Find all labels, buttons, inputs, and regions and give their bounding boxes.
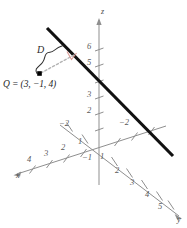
y-tick-label-5: 5 xyxy=(158,202,162,211)
y-tick-label-2: 2 xyxy=(115,166,119,175)
z-tick-label-2: 2 xyxy=(87,106,91,115)
y-tick-label-neg2: −2 xyxy=(59,119,69,128)
distance-label-D: D xyxy=(37,45,44,55)
x-tick-label-neg2: −2 xyxy=(119,118,129,127)
target-line xyxy=(47,28,173,156)
x-tick-label-neg1: −1 xyxy=(82,153,92,162)
y-axis-label: y xyxy=(177,216,181,224)
x-tick-label-3: 3 xyxy=(44,149,48,158)
x-axis-line xyxy=(17,126,166,174)
three-d-distance-figure: z x y 6 5 3 2 4 3 2 1 −2 −1 −2 1 2 3 4 5… xyxy=(0,0,187,228)
perpendicular-dashed-segment xyxy=(41,55,74,73)
x-tick-label-1: 1 xyxy=(78,137,82,146)
y-tick-label-4: 4 xyxy=(145,190,149,199)
z-axis-arrowhead xyxy=(96,18,101,25)
point-q-label: Q = (3, −1, 4) xyxy=(3,80,56,90)
x-tick-label-4: 4 xyxy=(27,155,31,164)
figure-canvas xyxy=(0,0,187,228)
y-tick-label-1: 1 xyxy=(100,152,104,161)
z-axis-label: z xyxy=(101,8,104,16)
x-tick-label-2: 2 xyxy=(61,143,65,152)
z-tick-label-3: 3 xyxy=(87,90,91,99)
x-axis-label: x xyxy=(16,172,20,180)
point-q-marker xyxy=(37,71,42,76)
y-tick-label-3: 3 xyxy=(130,178,134,187)
z-tick-label-6: 6 xyxy=(87,42,91,51)
z-tick-label-5: 5 xyxy=(87,58,91,67)
